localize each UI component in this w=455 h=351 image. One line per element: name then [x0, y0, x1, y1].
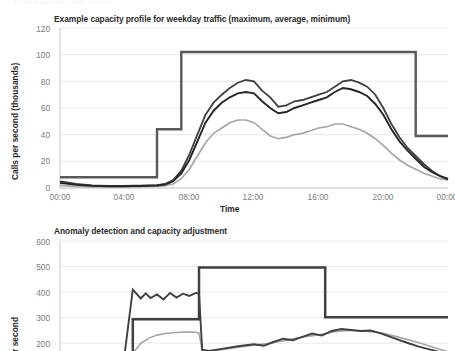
x-tick-top-6: 00:00: [427, 192, 455, 202]
y-tick-top-20: 20: [4, 156, 50, 166]
y-tick-bottom-400: 400: [4, 288, 50, 298]
series-capacity-step-top: [60, 52, 448, 177]
x-tick-top-4: 16:00: [298, 192, 338, 202]
y-tick-top-120: 120: [4, 24, 50, 34]
series-baseline-bottom: [60, 330, 448, 351]
x-tick-top-3: 12:00: [233, 192, 273, 202]
chart-title-bottom: Anomaly detection and capacity adjustmen…: [54, 226, 227, 236]
page-header-text: Technical overview — traffic capacity: [14, 0, 119, 5]
plot-area-anomaly-detection: [60, 241, 448, 351]
series-observed-bottom: [60, 290, 448, 351]
chart-title-top: Example capacity profile for weekday tra…: [54, 14, 350, 24]
figure-anomaly-detection: Anomaly detection and capacity adjustmen…: [0, 224, 455, 351]
y-tick-top-80: 80: [4, 77, 50, 87]
figure-capacity-profile: Example capacity profile for weekday tra…: [0, 8, 455, 222]
chart-svg-top: [60, 28, 448, 188]
document-page: Technical overview — traffic capacity Ex…: [0, 0, 455, 351]
x-tick-top-0: 00:00: [40, 192, 80, 202]
series-average-top: [60, 88, 448, 186]
x-tick-top-1: 04:00: [104, 192, 144, 202]
y-tick-top-100: 100: [4, 50, 50, 60]
x-tick-top-2: 08:00: [169, 192, 209, 202]
plot-area-capacity-profile: [60, 28, 448, 188]
series-maximum-top: [60, 80, 448, 186]
y-tick-bottom-500: 500: [4, 262, 50, 272]
y-tick-bottom-600: 600: [4, 237, 50, 247]
y-tick-bottom-300: 300: [4, 313, 50, 323]
x-axis-label-top: Time: [220, 204, 239, 214]
y-tick-bottom-200: 200: [4, 339, 50, 349]
gridlines-bottom: [60, 241, 448, 343]
series-capacity-step-bottom: [60, 268, 448, 351]
y-tick-top-40: 40: [4, 130, 50, 140]
x-tick-top-5: 20:00: [363, 192, 403, 202]
y-tick-top-60: 60: [4, 103, 50, 113]
chart-svg-bottom: [60, 241, 448, 351]
